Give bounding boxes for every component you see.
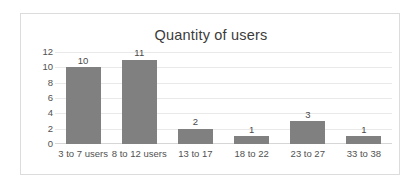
bar-slot: 11 — [111, 52, 167, 144]
bar-slot: 1 — [336, 52, 392, 144]
bar-value-label: 1 — [224, 125, 280, 135]
bar[interactable] — [234, 136, 269, 144]
y-axis-tick-10: 10 — [29, 63, 53, 73]
y-axis-tick-8: 8 — [29, 78, 53, 88]
x-axis-tick-label: 33 to 38 — [336, 149, 392, 159]
bar-series: 10 11 2 1 3 — [55, 52, 392, 144]
bar[interactable] — [122, 60, 157, 144]
bar[interactable] — [66, 67, 101, 144]
x-axis-tick-label: 3 to 7 users — [55, 149, 111, 159]
plot-area: 10 11 2 1 3 — [55, 52, 392, 144]
x-axis-tick-label: 8 to 12 users — [111, 149, 167, 159]
bar-value-label: 1 — [336, 125, 392, 135]
bar-slot: 3 — [280, 52, 336, 144]
x-axis-tick-label: 13 to 17 — [167, 149, 223, 159]
bar-slot: 1 — [224, 52, 280, 144]
chart-title: Quantity of users — [21, 27, 401, 43]
x-axis-tick-label: 23 to 27 — [280, 149, 336, 159]
bar-value-label: 11 — [111, 48, 167, 58]
bar[interactable] — [178, 129, 213, 144]
chart-container: Quantity of users 12 10 8 6 4 2 0 10 — [20, 13, 400, 175]
bar[interactable] — [290, 121, 325, 144]
y-axis-tick-0: 0 — [29, 139, 53, 149]
y-axis-tick-4: 4 — [29, 109, 53, 119]
bar-slot: 2 — [167, 52, 223, 144]
bar-value-label: 2 — [167, 117, 223, 127]
y-axis: 12 10 8 6 4 2 0 — [29, 52, 53, 144]
bar-value-label: 3 — [280, 110, 336, 120]
y-axis-tick-6: 6 — [29, 93, 53, 103]
x-axis: 3 to 7 users 8 to 12 users 13 to 17 18 t… — [55, 149, 392, 159]
bar[interactable] — [346, 136, 381, 144]
y-axis-tick-12: 12 — [29, 47, 53, 57]
x-axis-tick-label: 18 to 22 — [224, 149, 280, 159]
y-axis-tick-2: 2 — [29, 124, 53, 134]
bar-slot: 10 — [55, 52, 111, 144]
plot-wrapper: 12 10 8 6 4 2 0 10 11 — [21, 52, 401, 176]
bar-value-label: 10 — [55, 56, 111, 66]
